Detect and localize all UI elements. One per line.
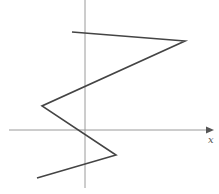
x-axis-arrow-icon: [206, 127, 214, 134]
graph-polyline: [37, 32, 185, 178]
function-graph-diagram: x: [0, 0, 219, 194]
x-axis-label: x: [208, 134, 214, 145]
